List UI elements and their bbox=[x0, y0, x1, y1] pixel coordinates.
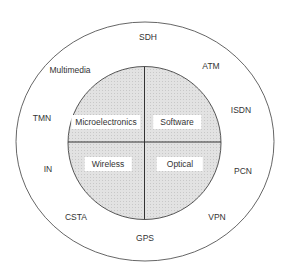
quadrant-wireless: Wireless bbox=[85, 157, 132, 171]
label-csta: CSTA bbox=[65, 212, 87, 222]
label-sdh: SDH bbox=[139, 32, 157, 42]
label-isdn: ISDN bbox=[231, 105, 251, 115]
label-multimedia: Multimedia bbox=[49, 65, 90, 75]
label-in: IN bbox=[44, 164, 53, 174]
label-tmn: TMN bbox=[33, 113, 51, 123]
label-vpn: VPN bbox=[208, 212, 225, 222]
quadrant-software: Software bbox=[153, 115, 201, 129]
label-gps: GPS bbox=[136, 233, 154, 243]
quadrant-microelectronics: Microelectronics bbox=[71, 115, 140, 129]
label-pcn: PCN bbox=[234, 166, 252, 176]
label-atm: ATM bbox=[202, 61, 219, 71]
quadrant-optical: Optical bbox=[157, 157, 203, 171]
